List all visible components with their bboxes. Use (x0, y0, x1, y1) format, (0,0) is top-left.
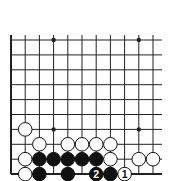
white-stone (75, 138, 89, 152)
white-stone (33, 138, 47, 152)
move-number-label: 1 (122, 168, 128, 180)
black-stone: 2 (89, 167, 103, 181)
white-stone (61, 138, 75, 152)
black-stone (33, 167, 47, 181)
white-stone (18, 167, 32, 181)
black-stone (104, 167, 118, 181)
white-stone (18, 123, 32, 137)
black-stone (89, 152, 103, 166)
go-board-diagram: 21 (0, 0, 177, 181)
white-stone (104, 152, 118, 166)
black-stone (33, 152, 47, 166)
move-number-label: 2 (93, 168, 99, 180)
black-stone (75, 152, 89, 166)
black-stone (47, 152, 61, 166)
white-stone: 1 (118, 167, 132, 181)
star-point (51, 127, 55, 131)
white-stone (104, 138, 118, 152)
black-stone (61, 152, 75, 166)
star-point (137, 127, 141, 131)
white-stone (146, 152, 160, 166)
star-point (51, 38, 55, 42)
black-stone (61, 167, 75, 181)
star-point (137, 38, 141, 42)
white-stone (89, 138, 103, 152)
white-stone (132, 152, 146, 166)
white-stone (18, 152, 32, 166)
